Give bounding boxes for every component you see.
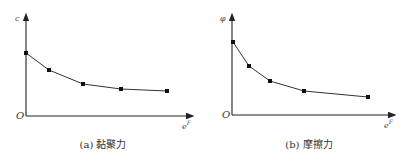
caption-prefix: (b) bbox=[285, 139, 299, 150]
data-point-marker bbox=[302, 89, 306, 93]
origin-label: O bbox=[16, 110, 24, 121]
data-point-marker bbox=[268, 79, 272, 83]
data-point-marker bbox=[24, 51, 28, 55]
caption-text: 摩擦力 bbox=[303, 139, 333, 150]
data-point-marker bbox=[47, 68, 51, 72]
chart-panel-friction: φ eF O (b) 摩擦力 bbox=[206, 0, 412, 162]
chart-panel-cohesion: c eF O (a) 黏聚力 bbox=[0, 0, 206, 162]
cohesion-markers bbox=[24, 51, 169, 93]
caption-b: (b) 摩擦力 bbox=[206, 136, 412, 151]
data-point-marker bbox=[119, 87, 123, 91]
y-axis-label: c bbox=[15, 14, 19, 23]
x-axis-label: eF bbox=[182, 119, 191, 131]
caption-prefix: (a) bbox=[80, 139, 94, 150]
data-point-marker bbox=[81, 82, 85, 86]
origin-label: O bbox=[222, 109, 230, 120]
friction-curve bbox=[233, 42, 368, 97]
x-axis-label: eF bbox=[384, 118, 393, 130]
data-point-marker bbox=[366, 95, 370, 99]
y-axis-label: φ bbox=[220, 14, 226, 23]
data-point-marker bbox=[231, 40, 235, 44]
caption-text: 黏聚力 bbox=[96, 139, 126, 150]
data-point-marker bbox=[247, 64, 251, 68]
data-point-marker bbox=[165, 89, 169, 93]
caption-a: (a) 黏聚力 bbox=[0, 136, 206, 151]
